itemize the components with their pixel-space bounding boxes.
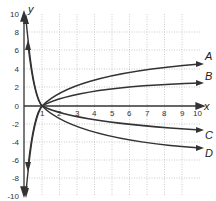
svg-text:10: 10 xyxy=(10,10,19,19)
svg-text:0: 0 xyxy=(15,102,20,111)
curve-label-b: B xyxy=(205,70,212,82)
svg-text:6: 6 xyxy=(15,46,20,55)
grid xyxy=(24,14,200,196)
axes xyxy=(21,12,204,196)
svg-text:-6: -6 xyxy=(12,156,20,165)
svg-text:4: 4 xyxy=(15,65,20,74)
y-axis-label: y xyxy=(27,3,35,15)
svg-text:2: 2 xyxy=(15,83,20,92)
svg-text:5: 5 xyxy=(110,109,115,118)
x-axis-label: x xyxy=(203,100,210,112)
svg-text:-8: -8 xyxy=(12,174,20,183)
log-graph: A B C D x y 1 2 3 4 5 6 7 8 9 10 10 8 6 … xyxy=(0,0,216,201)
svg-text:8: 8 xyxy=(15,28,20,37)
svg-text:2: 2 xyxy=(57,109,62,118)
svg-text:-10: -10 xyxy=(7,192,19,201)
svg-text:1: 1 xyxy=(40,109,45,118)
svg-text:8: 8 xyxy=(162,109,167,118)
svg-text:4: 4 xyxy=(92,109,97,118)
svg-text:-4: -4 xyxy=(12,138,20,147)
curve-d xyxy=(26,106,200,192)
svg-text:7: 7 xyxy=(145,109,150,118)
curve-label-a: A xyxy=(204,50,212,62)
svg-text:10: 10 xyxy=(193,109,202,118)
curve-a xyxy=(26,20,200,106)
svg-text:3: 3 xyxy=(75,109,80,118)
curve-label-c: C xyxy=(205,129,213,141)
svg-text:9: 9 xyxy=(180,109,185,118)
svg-text:-2: -2 xyxy=(12,120,20,129)
svg-text:6: 6 xyxy=(127,109,132,118)
curve-label-d: D xyxy=(205,147,213,159)
y-ticks: 10 8 6 4 2 0 -2 -4 -6 -8 -10 xyxy=(7,10,19,201)
